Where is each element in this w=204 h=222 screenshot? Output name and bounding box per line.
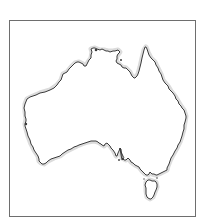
groote-eylandt	[120, 59, 122, 61]
flinders-island	[156, 177, 158, 179]
melville-island	[95, 49, 98, 52]
mainland-coastline	[24, 47, 186, 175]
king-island	[143, 178, 144, 179]
australia-outline-map	[0, 0, 204, 222]
kangaroo-island	[118, 159, 120, 161]
shark-bay-detail	[25, 123, 27, 125]
